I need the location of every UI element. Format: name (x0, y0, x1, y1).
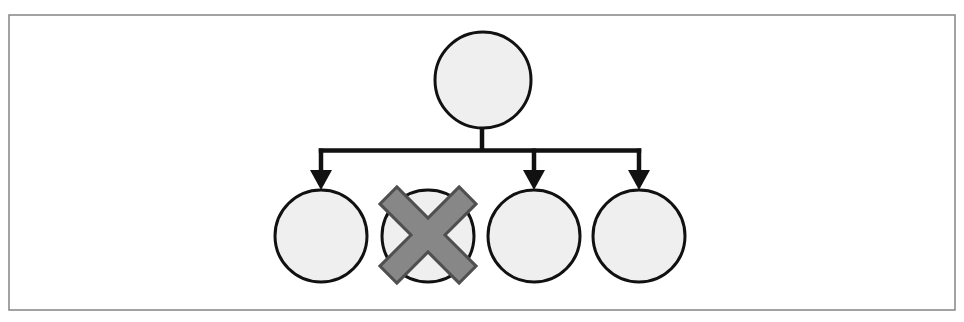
node-root[interactable] (435, 32, 531, 128)
node-child-4[interactable] (593, 190, 685, 282)
diagram-canvas: Tree diagram with one pruned child node (0, 0, 964, 322)
node-child-1[interactable] (275, 190, 367, 282)
node-child-3[interactable] (488, 190, 580, 282)
tree-diagram-svg (0, 0, 964, 322)
